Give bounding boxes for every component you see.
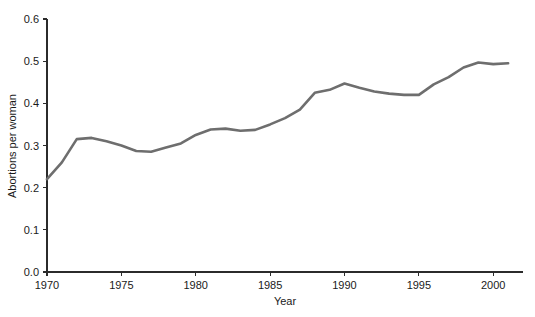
x-tick-label: 1975 [109,279,133,291]
y-axis-tick-labels: 0.00.10.20.30.40.50.6 [24,13,39,278]
y-tick-label: 0.5 [24,55,39,67]
x-tick-label: 2000 [481,279,505,291]
y-axis-title: Abortions per woman [6,94,18,198]
x-tick-label: 1980 [184,279,208,291]
y-tick-label: 0.3 [24,140,39,152]
x-tick-label: 1985 [258,279,282,291]
x-axis-title: Year [274,295,297,307]
chart-container: 0.00.10.20.30.40.50.6 197019751980198519… [0,0,535,317]
y-tick-label: 0.2 [24,182,39,194]
line-chart: 0.00.10.20.30.40.50.6 197019751980198519… [0,0,535,317]
y-tick-label: 0.6 [24,13,39,25]
x-axis-tick-labels: 1970197519801985199019952000 [35,279,506,291]
y-tick-label: 0.0 [24,266,39,278]
x-tick-label: 1995 [407,279,431,291]
x-tick-label: 1970 [35,279,59,291]
y-tick-label: 0.4 [24,97,39,109]
x-axis: 1970197519801985199019952000 [35,272,523,291]
y-axis: 0.00.10.20.30.40.50.6 [24,13,47,278]
x-tick-label: 1990 [332,279,356,291]
series-line-abortions-per-woman [47,62,508,179]
y-tick-label: 0.1 [24,224,39,236]
